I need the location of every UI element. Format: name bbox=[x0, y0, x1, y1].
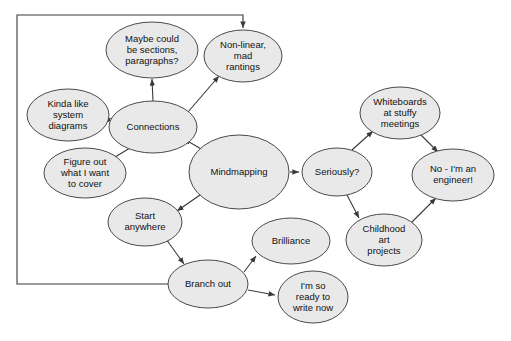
edge-connections-to-non-linear bbox=[188, 76, 219, 112]
edge-connections-to-maybe bbox=[152, 79, 153, 101]
node-label-brilliance: Brilliance bbox=[272, 235, 311, 246]
node-label-ready-to-write: I'm so bbox=[300, 280, 325, 291]
edge-seriously-to-whiteboards bbox=[352, 131, 373, 150]
node-label-seriously: Seriously? bbox=[315, 166, 359, 177]
mindmap-canvas: Maybe couldbe sections,paragraphs?Non-li… bbox=[0, 0, 511, 341]
node-label-childhood-art: projects bbox=[367, 245, 401, 256]
node-ready-to-write[interactable]: I'm soready towrite now bbox=[278, 271, 348, 323]
node-label-ready-to-write: write now bbox=[292, 302, 333, 313]
node-label-kinda-like-system-diagrams: diagrams bbox=[48, 120, 87, 131]
node-label-kinda-like-system-diagrams: Kinda like bbox=[47, 98, 88, 109]
node-label-ready-to-write: ready to bbox=[296, 291, 330, 302]
node-label-maybe-sections: be sections, bbox=[127, 44, 178, 55]
node-label-no-im-an-engineer: No - I'm an bbox=[430, 163, 476, 174]
node-label-whiteboards: meetings bbox=[381, 118, 420, 129]
edge-seriously-to-childhood bbox=[347, 195, 359, 218]
node-whiteboards[interactable]: Whiteboardsat stuffymeetings bbox=[360, 87, 440, 139]
edge-branch-out-to-brilliance bbox=[244, 256, 256, 272]
node-label-no-im-an-engineer: engineer! bbox=[433, 174, 473, 185]
node-label-maybe-sections: Maybe could bbox=[125, 33, 179, 44]
node-label-start-anywhere: Start bbox=[135, 210, 155, 221]
node-branch-out[interactable]: Branch out bbox=[168, 260, 248, 308]
node-label-non-linear: Non-linear, bbox=[220, 39, 266, 50]
node-label-non-linear: mad bbox=[234, 50, 252, 61]
node-label-branch-out: Branch out bbox=[185, 278, 231, 289]
node-label-maybe-sections: paragraphs? bbox=[125, 55, 178, 66]
node-kinda-like-system-diagrams[interactable]: Kinda likesystemdiagrams bbox=[27, 89, 109, 141]
node-label-childhood-art: Childhood bbox=[363, 223, 406, 234]
node-seriously[interactable]: Seriously? bbox=[302, 148, 372, 196]
node-connections[interactable]: Connections bbox=[109, 101, 197, 153]
node-no-im-an-engineer[interactable]: No - I'm anengineer! bbox=[412, 149, 494, 201]
node-label-start-anywhere: anywhere bbox=[124, 221, 165, 232]
node-label-whiteboards: Whiteboards bbox=[373, 96, 427, 107]
edge-branch-out-to-ready bbox=[248, 290, 275, 295]
nodes-layer: Maybe couldbe sections,paragraphs?Non-li… bbox=[27, 22, 494, 323]
mindmap-diagram: Maybe couldbe sections,paragraphs?Non-li… bbox=[0, 0, 511, 341]
node-start-anywhere[interactable]: Startanywhere bbox=[108, 198, 182, 246]
node-label-figure-out: Figure out bbox=[64, 156, 107, 167]
edge-mindmapping-to-start-anywhere bbox=[177, 195, 200, 211]
node-label-mindmapping: Mindmapping bbox=[210, 166, 267, 177]
node-figure-out[interactable]: Figure outwhat I wantto cover bbox=[44, 148, 126, 198]
node-label-figure-out: to cover bbox=[68, 178, 102, 189]
edge-start-anywhere-to-branch-out bbox=[166, 239, 184, 264]
edge-whiteboards-to-engineer bbox=[420, 134, 438, 152]
node-label-non-linear: rantings bbox=[226, 61, 260, 72]
node-brilliance[interactable]: Brilliance bbox=[252, 218, 330, 264]
node-label-figure-out: what I want bbox=[60, 167, 109, 178]
node-label-kinda-like-system-diagrams: system bbox=[53, 109, 83, 120]
node-maybe-sections[interactable]: Maybe couldbe sections,paragraphs? bbox=[106, 22, 198, 78]
node-label-whiteboards: at stuffy bbox=[383, 107, 416, 118]
edge-childhood-to-engineer bbox=[410, 198, 436, 224]
node-mindmapping[interactable]: Mindmapping bbox=[189, 135, 289, 209]
node-childhood-art[interactable]: Childhoodartprojects bbox=[346, 214, 422, 266]
node-label-connections: Connections bbox=[127, 121, 180, 132]
node-label-childhood-art: art bbox=[378, 234, 389, 245]
node-non-linear[interactable]: Non-linear,madrantings bbox=[204, 30, 282, 82]
